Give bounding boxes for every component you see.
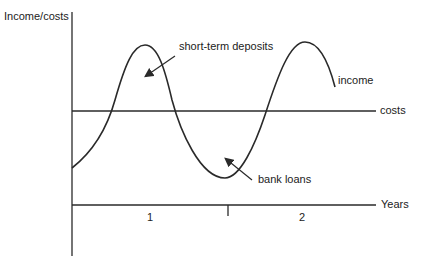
loans-annotation: bank loans bbox=[258, 173, 311, 185]
x-axis-label: Years bbox=[381, 198, 409, 210]
x-tick-2: 2 bbox=[299, 211, 305, 223]
deposits-annotation: short-term deposits bbox=[179, 40, 273, 52]
y-axis-label: Income/costs bbox=[4, 10, 69, 22]
income-label: income bbox=[338, 74, 373, 86]
costs-label: costs bbox=[380, 104, 406, 116]
x-tick-1: 1 bbox=[147, 211, 153, 223]
income-curve bbox=[72, 42, 335, 178]
income-costs-diagram bbox=[0, 0, 431, 259]
